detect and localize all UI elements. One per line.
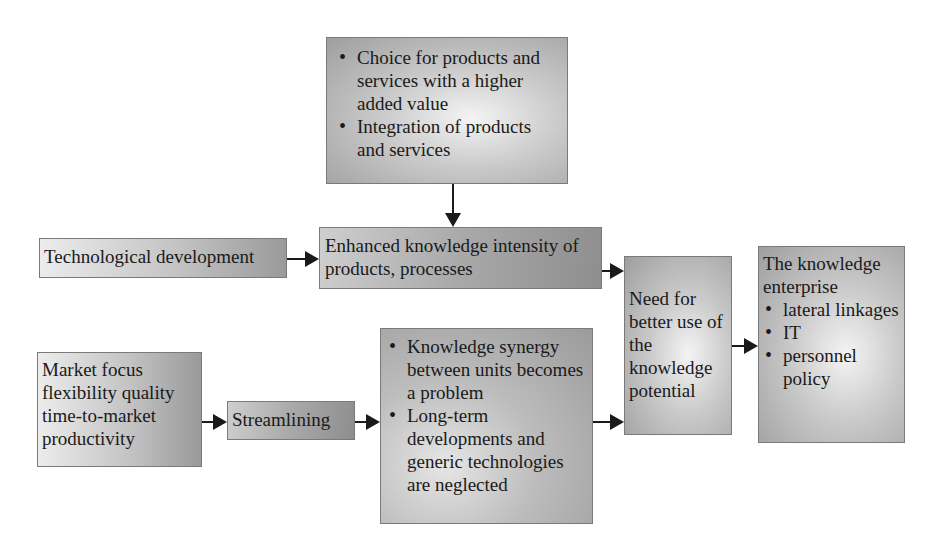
bullet-item: IT	[761, 321, 900, 344]
node-market-focus: Market focus flexibility quality time-to…	[37, 352, 202, 467]
node-label: Enhanced knowledge intensity of products…	[325, 235, 579, 279]
node-label: Technological development	[44, 246, 254, 267]
node-knowledge-synergy: Knowledge synergy between units becomes …	[380, 328, 593, 524]
node-technological-development: Technological development	[39, 238, 287, 278]
bullet-item: Choice for products and services with a …	[335, 46, 559, 115]
bullet-item: lateral linkages	[761, 298, 900, 321]
node-need-better-use: Need for better use of the knowledge pot…	[624, 256, 732, 435]
bullet-item: Integration of products and services	[335, 115, 559, 161]
bullet-item: personnel policy	[761, 344, 900, 390]
bullet-item: Knowledge synergy between units becomes …	[385, 335, 588, 404]
node-label: Streamlining	[232, 409, 330, 430]
node-label: Market focus flexibility quality time-to…	[42, 359, 174, 449]
node-title: The knowledge enterprise	[763, 252, 900, 298]
bullet-item: Long-term developments and generic techn…	[385, 404, 588, 496]
node-value-added: Choice for products and services with a …	[326, 37, 568, 184]
node-label: Need for better use of the knowledge pot…	[629, 288, 723, 401]
node-knowledge-enterprise: The knowledge enterprise lateral linkage…	[758, 246, 905, 443]
node-streamlining: Streamlining	[227, 401, 355, 440]
node-enhanced-knowledge-intensity: Enhanced knowledge intensity of products…	[319, 227, 602, 289]
